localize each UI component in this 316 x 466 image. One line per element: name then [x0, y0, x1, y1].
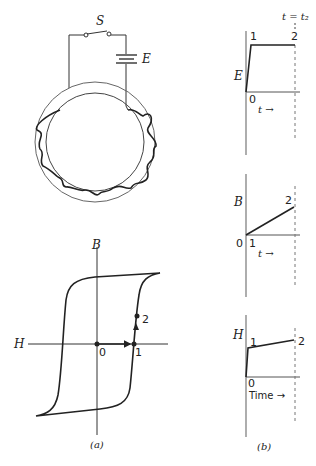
hysteresis-plot: B H 0 1 2 (a)	[13, 238, 168, 450]
plot-b-vs-t: B 0 1 2 t →	[233, 174, 300, 297]
e-curve	[246, 45, 295, 92]
point-1-label: 1	[135, 346, 142, 359]
e-origin: 0	[249, 93, 256, 106]
e-y-label: E	[233, 69, 243, 83]
up-arrow-icon	[133, 323, 139, 330]
left-wire	[69, 35, 85, 88]
b-y-label: B	[233, 195, 243, 209]
switch-label: S	[96, 14, 104, 28]
battery-label: E	[141, 52, 151, 66]
origin-label: 0	[99, 346, 106, 359]
b-p1: 1	[249, 237, 256, 250]
h-p2: 2	[298, 335, 305, 348]
b-curve	[246, 207, 294, 235]
point-2	[135, 314, 140, 319]
h-p1: 1	[250, 336, 257, 349]
t2-label: t = t₂	[282, 11, 309, 22]
e-p2: 2	[291, 30, 298, 43]
h-x-label: Time →	[248, 390, 285, 401]
plot-h-vs-time: H 0 1 2 Time → (b)	[232, 315, 305, 452]
coil-winding	[37, 110, 157, 195]
b-p2: 2	[285, 194, 292, 207]
figure-canvas: S E B H 0 1 2 (a) t = t₂ E 0 1 2 t →	[0, 0, 316, 466]
battery-icon	[116, 55, 137, 63]
b-x-label: t →	[258, 248, 274, 259]
h-y-label: H	[232, 328, 244, 342]
e-p1: 1	[250, 30, 257, 43]
b-origin: 0	[236, 237, 243, 250]
right-wire-bottom	[126, 64, 128, 110]
b-axis-label: B	[91, 238, 101, 252]
e-x-label: t →	[258, 104, 274, 115]
circuit-diagram: S E	[35, 14, 156, 202]
caption-a: (a)	[90, 439, 104, 450]
toroid-inner	[46, 93, 144, 191]
h-axis-label: H	[13, 337, 25, 351]
h-origin: 0	[248, 377, 255, 390]
right-wire-top	[111, 35, 126, 54]
point-2-label: 2	[142, 313, 149, 326]
switch-blade	[87, 31, 107, 34]
caption-b: (b)	[257, 441, 271, 452]
plot-e-vs-t: t = t₂ E 0 1 2 t →	[233, 11, 309, 155]
switch-contact-right	[107, 32, 111, 36]
